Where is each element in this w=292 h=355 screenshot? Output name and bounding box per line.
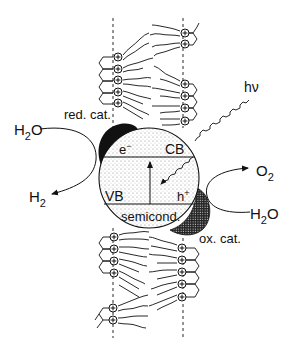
semicond-label: semicond. (121, 209, 180, 224)
h2-label: H2 (29, 188, 46, 209)
o2-label: O2 (256, 162, 274, 183)
h2o-left-label: H2O (14, 121, 43, 142)
oxidation-arrow (206, 168, 250, 212)
red-cat-label: red. cat. (64, 107, 111, 122)
hv-label: hν (244, 79, 259, 95)
cb-label: CB (165, 141, 184, 157)
lower-left-leaflet (95, 232, 149, 329)
membrane-semiconductor-diagram: red. cat. ox. cat. hν e− CB VB h+ semico… (0, 0, 292, 355)
h2o-right-label: H2O (250, 205, 279, 226)
reduction-arrow (40, 128, 96, 194)
lower-right-leaflet (149, 237, 199, 310)
upper-right-leaflet (150, 23, 199, 125)
vb-label: VB (105, 188, 124, 204)
photon-wave (195, 100, 249, 141)
ox-cat-label: ox. cat. (199, 231, 241, 246)
